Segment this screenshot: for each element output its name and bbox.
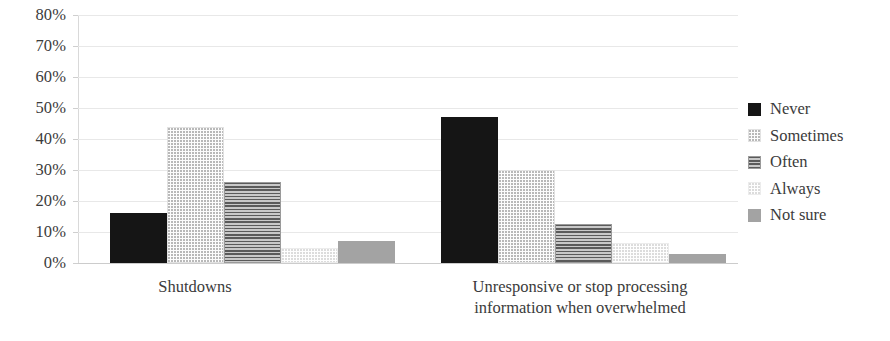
bar-chart: 80% 70% 60% 50% 40% 30% 20% 10% 0% xyxy=(0,0,890,341)
legend-label-not-sure: Not sure xyxy=(770,206,826,224)
x-category-label-shutdowns: Shutdowns xyxy=(110,276,280,297)
legend-swatch-often-icon xyxy=(748,156,761,169)
legend-swatch-never-icon xyxy=(748,103,761,116)
bar-shutdowns-always xyxy=(281,248,338,264)
x-category-label-shutdowns-line1: Shutdowns xyxy=(110,276,280,297)
x-category-label-unresponsive: Unresponsive or stop processing informat… xyxy=(420,276,740,318)
y-tick-label-20: 20% xyxy=(0,193,66,209)
legend-label-always: Always xyxy=(770,180,820,198)
bar-unresponsive-never xyxy=(441,117,498,263)
bar-unresponsive-not-sure xyxy=(669,254,726,263)
legend-label-often: Often xyxy=(770,153,808,171)
y-tick-label-0: 0% xyxy=(0,255,66,271)
y-tick-label-40: 40% xyxy=(0,131,66,147)
y-tick-label-50: 50% xyxy=(0,100,66,116)
legend-swatch-sometimes-icon xyxy=(748,129,761,142)
legend-label-sometimes: Sometimes xyxy=(770,127,843,145)
gridline-baseline-0 xyxy=(78,263,738,264)
legend-swatch-always-icon xyxy=(748,182,761,195)
x-category-label-unresponsive-line1: Unresponsive or stop processing xyxy=(420,276,740,297)
legend-item-sometimes: Sometimes xyxy=(748,123,890,150)
legend-item-never: Never xyxy=(748,96,890,123)
x-category-label-unresponsive-line2: information when overwhelmed xyxy=(420,297,740,318)
bar-unresponsive-sometimes xyxy=(498,170,555,263)
legend-label-never: Never xyxy=(770,100,810,118)
plot-area xyxy=(78,15,738,263)
legend-swatch-not-sure-icon xyxy=(748,209,761,222)
y-axis: 80% 70% 60% 50% 40% 30% 20% 10% 0% xyxy=(0,0,72,290)
bar-unresponsive-always xyxy=(612,243,669,263)
y-tick-label-10: 10% xyxy=(0,224,66,240)
legend-item-not-sure: Not sure xyxy=(748,202,890,229)
bar-shutdowns-sometimes xyxy=(167,127,224,263)
bar-unresponsive-often xyxy=(555,224,612,263)
bar-shutdowns-often xyxy=(224,182,281,263)
legend-item-always: Always xyxy=(748,176,890,203)
y-tick-label-80: 80% xyxy=(0,7,66,23)
y-tick-label-70: 70% xyxy=(0,38,66,54)
bar-shutdowns-not-sure xyxy=(338,241,395,263)
bars-layer xyxy=(78,15,738,263)
legend: Never Sometimes Often Always Not sure xyxy=(748,96,890,229)
legend-item-often: Often xyxy=(748,149,890,176)
y-tick-label-30: 30% xyxy=(0,162,66,178)
bar-shutdowns-never xyxy=(110,213,167,263)
y-tick-label-60: 60% xyxy=(0,69,66,85)
